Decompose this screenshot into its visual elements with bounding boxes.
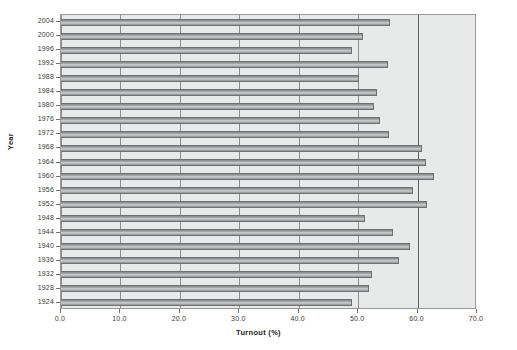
bar bbox=[61, 89, 377, 96]
bar-row bbox=[61, 113, 475, 127]
bar bbox=[61, 271, 372, 278]
y-axis-title: Year bbox=[6, 133, 15, 150]
bar-row bbox=[61, 226, 475, 240]
bar-row bbox=[61, 127, 475, 141]
bar bbox=[61, 243, 410, 250]
bar-row bbox=[61, 85, 475, 99]
bar-row bbox=[61, 29, 475, 43]
y-axis-tick-label: 1964 bbox=[20, 158, 54, 165]
bar-row bbox=[61, 15, 475, 29]
bar bbox=[61, 215, 365, 222]
x-axis-tick-label: 0.0 bbox=[40, 315, 80, 322]
y-axis-tick-label: 1944 bbox=[20, 228, 54, 235]
bar-row bbox=[61, 155, 475, 169]
y-axis-tick bbox=[56, 105, 60, 106]
y-axis-tick bbox=[56, 218, 60, 219]
y-axis-tick-label: 1960 bbox=[20, 172, 54, 179]
x-axis-tick-label: 40.0 bbox=[278, 315, 318, 322]
x-axis-tick bbox=[417, 309, 418, 313]
y-axis-tick-label: 1972 bbox=[20, 129, 54, 136]
y-axis-tick bbox=[56, 204, 60, 205]
y-axis-tick-label: 1968 bbox=[20, 143, 54, 150]
bar bbox=[61, 299, 352, 306]
y-axis-tick bbox=[56, 260, 60, 261]
bar bbox=[61, 173, 434, 180]
bar bbox=[61, 159, 426, 166]
x-axis-tick bbox=[119, 309, 120, 313]
x-axis-tick bbox=[298, 309, 299, 313]
bar-row bbox=[61, 99, 475, 113]
bar-row bbox=[61, 240, 475, 254]
bar-row bbox=[61, 268, 475, 282]
y-axis-tick bbox=[56, 274, 60, 275]
bar-row bbox=[61, 254, 475, 268]
y-axis-tick-label: 1996 bbox=[20, 45, 54, 52]
x-axis-tick bbox=[60, 309, 61, 313]
bar bbox=[61, 47, 352, 54]
y-axis-tick bbox=[56, 190, 60, 191]
y-axis-tick-label: 1928 bbox=[20, 284, 54, 291]
x-axis-title: Turnout (%) bbox=[0, 328, 517, 337]
bar bbox=[61, 19, 390, 26]
bar bbox=[61, 187, 413, 194]
y-axis-tick bbox=[56, 133, 60, 134]
y-axis-tick bbox=[56, 119, 60, 120]
bar bbox=[61, 229, 393, 236]
y-axis-tick-label: 1936 bbox=[20, 256, 54, 263]
y-axis-tick bbox=[56, 77, 60, 78]
y-axis-tick-label: 1948 bbox=[20, 214, 54, 221]
y-axis-tick bbox=[56, 35, 60, 36]
y-axis-tick-label: 1992 bbox=[20, 59, 54, 66]
x-axis-tick-label: 50.0 bbox=[337, 315, 377, 322]
y-axis-tick bbox=[56, 49, 60, 50]
y-axis-tick bbox=[56, 246, 60, 247]
y-axis-tick bbox=[56, 63, 60, 64]
y-axis-tick-label: 1956 bbox=[20, 186, 54, 193]
bar-row bbox=[61, 57, 475, 71]
x-axis-tick-label: 60.0 bbox=[397, 315, 437, 322]
y-axis-tick bbox=[56, 232, 60, 233]
y-axis-tick bbox=[56, 176, 60, 177]
bar bbox=[61, 257, 399, 264]
y-axis-tick bbox=[56, 147, 60, 148]
bar bbox=[61, 103, 374, 110]
x-axis-tick bbox=[476, 309, 477, 313]
bar bbox=[61, 145, 422, 152]
bar bbox=[61, 201, 427, 208]
y-axis-tick-label: 2000 bbox=[20, 31, 54, 38]
y-axis-tick-label: 1984 bbox=[20, 87, 54, 94]
bar bbox=[61, 75, 359, 82]
bar-row bbox=[61, 282, 475, 296]
bar bbox=[61, 117, 380, 124]
y-axis-tick-label: 1988 bbox=[20, 73, 54, 80]
bar-row bbox=[61, 198, 475, 212]
x-axis-tick-label: 20.0 bbox=[159, 315, 199, 322]
x-axis-tick-label: 30.0 bbox=[218, 315, 258, 322]
bar bbox=[61, 285, 369, 292]
bar-row bbox=[61, 71, 475, 85]
bar-row bbox=[61, 296, 475, 309]
x-axis-tick bbox=[238, 309, 239, 313]
x-axis-tick-label: 70.0 bbox=[456, 315, 496, 322]
bar bbox=[61, 131, 389, 138]
y-axis-tick-label: 1932 bbox=[20, 270, 54, 277]
bar bbox=[61, 61, 388, 68]
y-axis-tick bbox=[56, 91, 60, 92]
y-axis-tick-label: 1952 bbox=[20, 200, 54, 207]
plot-area bbox=[60, 14, 476, 309]
y-axis-tick bbox=[56, 302, 60, 303]
x-axis-tick bbox=[357, 309, 358, 313]
x-axis-tick bbox=[179, 309, 180, 313]
bar-chart: Year Turnout (%) 0.010.020.030.040.050.0… bbox=[0, 0, 517, 350]
y-axis-tick bbox=[56, 162, 60, 163]
y-axis-tick bbox=[56, 21, 60, 22]
y-axis-tick-label: 1924 bbox=[20, 298, 54, 305]
bar-row bbox=[61, 212, 475, 226]
y-axis-tick-label: 1976 bbox=[20, 115, 54, 122]
bar-row bbox=[61, 170, 475, 184]
y-axis-tick-label: 2004 bbox=[20, 17, 54, 24]
y-axis-tick bbox=[56, 288, 60, 289]
bar-row bbox=[61, 184, 475, 198]
x-axis-tick-label: 10.0 bbox=[99, 315, 139, 322]
y-axis-tick-label: 1980 bbox=[20, 101, 54, 108]
